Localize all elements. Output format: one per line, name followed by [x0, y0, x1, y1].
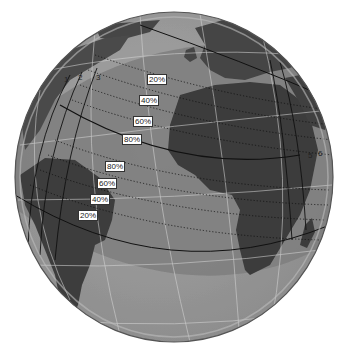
percent-label-south-80: 80%: [105, 161, 125, 172]
percent-label-south-20: 20%: [78, 210, 98, 221]
percent-label-north-60: 60%: [133, 116, 153, 127]
percent-label-north-40: 40%: [139, 95, 159, 106]
path-marker-6: 6: [318, 150, 322, 158]
path-marker-3: 3: [96, 74, 100, 82]
path-marker-1: 1: [64, 76, 68, 84]
path-marker-5: 5: [308, 152, 312, 160]
globe-map: [0, 0, 348, 358]
percent-label-north-80: 80%: [122, 134, 142, 145]
path-marker-2: 2: [78, 74, 82, 82]
percent-label-south-40: 40%: [90, 194, 110, 205]
percent-label-south-60: 60%: [97, 178, 117, 189]
percent-label-north-20: 20%: [147, 74, 167, 85]
